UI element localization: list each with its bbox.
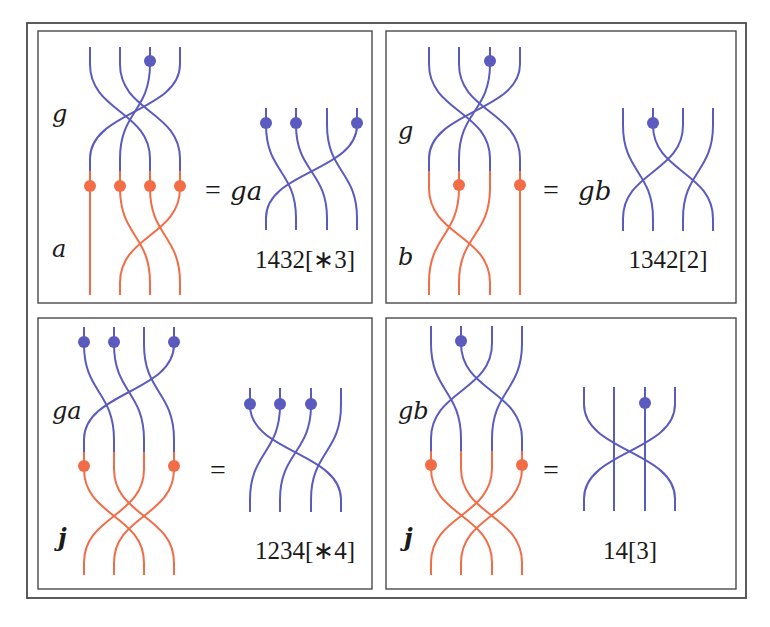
result-braid — [244, 388, 341, 512]
upper-braid-label: g — [52, 100, 67, 128]
strand-2 — [429, 171, 459, 295]
equals-sign: = — [543, 454, 559, 485]
strand-dot-icon — [108, 336, 120, 348]
strand-4 — [90, 47, 180, 171]
strand-dot-icon — [114, 180, 126, 192]
panel-gb-times-j: gbj=14[3] — [398, 326, 675, 575]
lower-braid-b — [429, 171, 526, 295]
panel-g-times-b: gb=gb1342[2] — [398, 47, 713, 295]
strand-dot-icon — [244, 398, 256, 410]
upper-braid-label: ga — [52, 397, 82, 425]
braid-code-label: 1342[2] — [628, 246, 707, 273]
strand-4 — [584, 387, 675, 511]
lower-braid-label: j — [54, 523, 67, 552]
strand-dot-icon — [84, 180, 96, 192]
strand-dot-icon — [144, 55, 156, 67]
strand-1 — [584, 387, 675, 511]
braid-code-label: 14[3] — [603, 537, 657, 564]
strand-dot-icon — [290, 117, 302, 129]
upper-braid-g — [90, 47, 180, 171]
equals-sign: = — [210, 454, 226, 485]
strand-dot-icon — [168, 460, 180, 472]
lower-braid-label: b — [398, 243, 413, 271]
strand-dot-icon — [305, 398, 317, 410]
panel-frames — [38, 31, 736, 589]
lower-braid-j — [78, 452, 180, 575]
lower-braid-a — [84, 171, 186, 295]
upper-braid-label: g — [398, 117, 413, 145]
strand-dot-icon — [78, 460, 90, 472]
strand-dot-icon — [78, 336, 90, 348]
strand-dot-icon — [647, 117, 659, 129]
strand-dot-icon — [484, 55, 496, 67]
result-braid — [623, 108, 713, 231]
strand-dot-icon — [455, 335, 467, 347]
strand-dot-icon — [453, 179, 465, 191]
strand-dot-icon — [514, 179, 526, 191]
strand-3 — [459, 171, 490, 295]
equals-sign: = — [543, 174, 559, 205]
result-label: ga — [230, 176, 262, 206]
strand-dot-icon — [144, 180, 156, 192]
panel-g-times-a: ga=ga1432[∗3] — [52, 47, 363, 295]
upper-braid-ga — [78, 327, 180, 452]
panel-ga-times-j: gaj=1234[∗4] — [52, 327, 355, 575]
strand-dot-icon — [174, 180, 186, 192]
strand-dot-icon — [260, 117, 272, 129]
braid-code-label: 1432[∗3] — [255, 246, 355, 273]
strand-4 — [683, 108, 713, 231]
strand-dot-icon — [425, 459, 437, 471]
result-braid — [584, 387, 675, 511]
lower-braid-label: a — [52, 235, 66, 263]
strand-4 — [492, 326, 522, 451]
result-label: gb — [578, 176, 611, 206]
panel-frame-4 — [386, 318, 736, 589]
lower-braid-j — [425, 451, 528, 575]
lower-braid-label: j — [400, 523, 413, 552]
result-braid — [260, 108, 363, 230]
braid-code-label: 1234[∗4] — [255, 537, 355, 564]
braid-diagram-figure: ga=ga1432[∗3]gb=gb1342[2]gaj=1234[∗4]gbj… — [0, 0, 770, 627]
strand-dot-icon — [274, 398, 286, 410]
strand-dot-icon — [516, 459, 528, 471]
strand-dot-icon — [168, 336, 180, 348]
strand-dot-icon — [639, 397, 651, 409]
upper-braid-g — [429, 47, 520, 171]
strand-dot-icon — [351, 117, 363, 129]
strand-4 — [429, 47, 520, 171]
upper-braid-label: gb — [398, 397, 429, 425]
equals-sign: = — [205, 174, 221, 205]
upper-braid-gb — [431, 326, 522, 451]
panels: ga=ga1432[∗3]gb=gb1342[2]gaj=1234[∗4]gbj… — [52, 47, 713, 575]
